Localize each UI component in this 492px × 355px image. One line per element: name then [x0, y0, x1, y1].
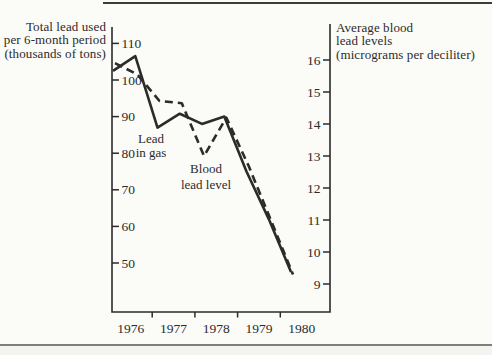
right-axis-tick-label: 14	[307, 117, 321, 132]
year-label: 1979	[245, 321, 272, 336]
year-label: 1978	[203, 321, 230, 336]
year-label: 1980	[288, 321, 315, 336]
annotation-lead-in-gas: Lead in gas	[122, 132, 180, 160]
annotation-line: in gas	[122, 146, 180, 160]
page-margin-strip	[0, 346, 492, 355]
right-axis-tick-label: 10	[307, 245, 321, 260]
chart-plot-area: 1101009080706050161514131211109197619771…	[0, 0, 492, 355]
right-axis-tick-label: 9	[314, 277, 321, 292]
year-label: 1976	[117, 321, 144, 336]
annotation-blood-lead-level: Blood lead level	[166, 161, 246, 193]
right-axis-tick-label: 12	[307, 181, 321, 196]
annotation-line: Lead	[122, 132, 180, 146]
annotation-line: Blood	[166, 161, 246, 177]
left-axis-tick-label: 110	[122, 36, 142, 51]
annotation-line: lead level	[166, 177, 246, 193]
left-axis-tick-label: 90	[122, 109, 136, 124]
right-axis-tick-label: 11	[308, 213, 321, 228]
right-axis-tick-label: 15	[307, 85, 321, 100]
left-axis-tick-label: 60	[122, 219, 136, 234]
year-label: 1977	[160, 321, 187, 336]
left-axis-tick-label: 70	[122, 182, 136, 197]
left-axis-tick-label: 50	[122, 256, 136, 271]
right-axis-tick-label: 13	[307, 149, 321, 164]
book-figure-lead-chart: Total lead used per 6-month period (thou…	[0, 0, 492, 355]
right-axis-tick-label: 16	[307, 53, 321, 68]
